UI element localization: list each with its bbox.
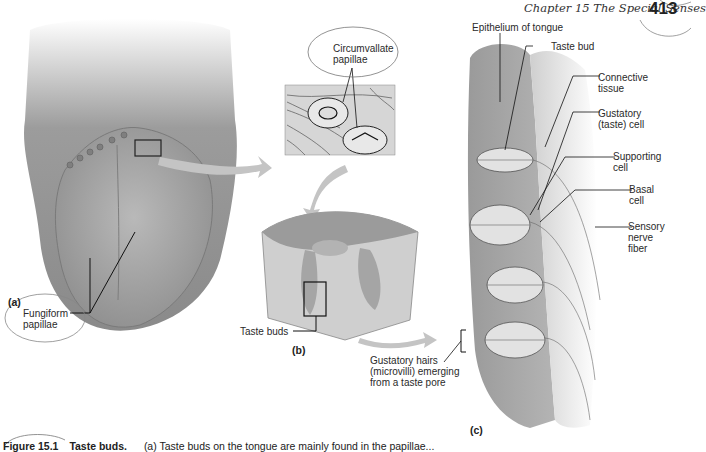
label-gustatory-cell: Gustatory (taste) cell bbox=[598, 108, 644, 130]
arrow-icon bbox=[358, 332, 437, 348]
label-epithelium: Epithelium of tongue bbox=[472, 22, 563, 33]
label-connective-tissue: Connective tissue bbox=[598, 72, 648, 94]
figure-caption: Figure 15.1 Taste buds. (a) Taste buds o… bbox=[3, 440, 434, 452]
tissue-block-illustration bbox=[262, 212, 418, 340]
label-supporting-cell: Supporting cell bbox=[613, 151, 661, 173]
label-sensory-nerve-fiber: Sensory nerve fiber bbox=[628, 221, 665, 254]
label-gustatory-hairs: Gustatory hairs (microvilli) emerging fr… bbox=[370, 355, 459, 388]
label-basal-cell: Basal cell bbox=[629, 184, 654, 206]
label-fungiform-papillae: Fungiform papillae bbox=[23, 308, 68, 330]
tongue-illustration bbox=[5, 19, 237, 342]
panel-label-a: (a) bbox=[8, 296, 21, 308]
label-taste-buds: Taste buds bbox=[240, 326, 288, 337]
panel-label-b: (b) bbox=[292, 344, 305, 356]
figure-title: Taste buds. bbox=[69, 440, 127, 452]
chapter-header: Chapter 15 The Special Senses bbox=[524, 1, 706, 15]
figure-number: Figure 15.1 bbox=[3, 440, 58, 452]
figure-caption-body: (a) Taste buds on the tongue are mainly … bbox=[144, 440, 435, 452]
panel-label-c: (c) bbox=[470, 424, 483, 436]
label-taste-bud: Taste bud bbox=[551, 41, 594, 52]
label-circumvallate-papillae: Circumvallate papillae bbox=[333, 43, 394, 65]
epithelium-illustration bbox=[461, 44, 600, 428]
page-number: 413 bbox=[649, 0, 677, 19]
